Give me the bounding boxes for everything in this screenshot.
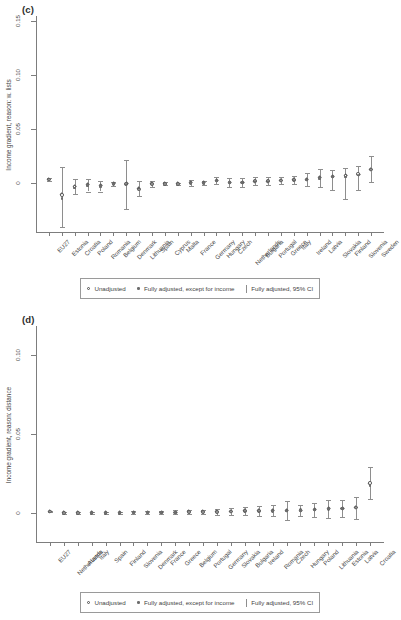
x-tick-mark <box>356 542 357 546</box>
confidence-interval-cap <box>240 178 245 179</box>
y-tick-mark <box>31 183 36 184</box>
confidence-interval-cap <box>369 156 374 157</box>
confidence-interval-cap <box>189 186 194 187</box>
confidence-interval-cap <box>73 179 78 180</box>
x-tick-mark <box>287 542 288 546</box>
y-tick-mark <box>31 129 36 130</box>
data-point-partially-adjusted <box>318 177 320 179</box>
x-tick-mark <box>120 542 121 546</box>
confidence-interval-cap <box>73 194 78 195</box>
panel-c-y-axis <box>36 16 37 232</box>
data-point-partially-adjusted <box>313 509 315 511</box>
panel-d: (d) Income gradient, reason: distance 00… <box>0 310 401 620</box>
confidence-interval-cap <box>98 181 103 182</box>
ci-bar-icon <box>246 285 247 293</box>
x-tick-mark <box>281 232 282 236</box>
partial-marker-icon <box>137 601 140 604</box>
x-tick-mark <box>273 542 274 546</box>
x-tick-mark <box>147 542 148 546</box>
confidence-interval-cap <box>368 499 373 500</box>
confidence-interval-cap <box>137 196 142 197</box>
y-tick-label: 0 <box>0 513 31 514</box>
confidence-interval-cap <box>202 185 207 186</box>
legend-item-partial: Fully adjusted, except for income <box>137 285 234 292</box>
confidence-interval-cap <box>227 178 232 179</box>
x-tick-mark <box>178 232 179 236</box>
y-tick-mark <box>31 355 36 356</box>
x-tick-mark <box>358 232 359 236</box>
x-tick-mark <box>216 232 217 236</box>
figure-container: (c) Income gradient, reason: w. lists 00… <box>0 0 401 620</box>
y-tick-label: 0.10 <box>0 355 31 356</box>
confidence-interval-cap <box>271 505 276 506</box>
x-tick-mark <box>332 232 333 236</box>
data-point-partially-adjusted <box>202 182 204 184</box>
x-tick-mark <box>49 232 50 236</box>
x-tick-mark <box>165 232 166 236</box>
confidence-interval-cap <box>298 505 303 506</box>
data-point-partially-adjusted <box>254 180 256 182</box>
x-tick-mark <box>242 232 243 236</box>
data-point-partially-adjusted <box>293 179 295 181</box>
legend-item-partial: Fully adjusted, except for income <box>137 599 234 606</box>
confidence-interval-cap <box>369 182 374 183</box>
confidence-interval-cap <box>356 166 361 167</box>
x-axis-category-label: EU27 <box>55 238 71 254</box>
confidence-interval-cap <box>227 187 232 188</box>
x-tick-mark <box>307 232 308 236</box>
x-tick-mark <box>161 542 162 546</box>
confidence-interval-cap <box>343 168 348 169</box>
data-point-partially-adjusted <box>86 184 88 186</box>
confidence-interval-cap <box>312 503 317 504</box>
confidence-interval-cap <box>285 501 290 502</box>
confidence-interval-cap <box>279 184 284 185</box>
x-tick-mark <box>64 542 65 546</box>
x-axis-category-label: Spain <box>112 548 128 564</box>
confidence-interval-cap <box>298 516 303 517</box>
confidence-interval-cap <box>343 199 348 200</box>
confidence-interval-cap <box>98 192 103 193</box>
confidence-interval-cap <box>354 519 359 520</box>
confidence-interval-cap <box>318 187 323 188</box>
confidence-interval-cap <box>243 515 248 516</box>
confidence-interval-cap <box>124 209 129 210</box>
panel-c-plot-area: 00.050.100.15EU27EstoniaCroatiaPolandRom… <box>0 0 401 310</box>
confidence-interval-cap <box>137 181 142 182</box>
panel-c: (c) Income gradient, reason: w. lists 00… <box>0 0 401 310</box>
confidence-interval-cap <box>368 467 373 468</box>
x-tick-mark <box>328 542 329 546</box>
data-point-unadjusted <box>60 193 64 197</box>
x-tick-mark <box>175 542 176 546</box>
unadjusted-marker-icon <box>87 287 91 291</box>
data-point-partially-adjusted <box>132 512 134 514</box>
x-tick-mark <box>300 542 301 546</box>
confidence-interval-cap <box>271 516 276 517</box>
x-tick-mark <box>245 542 246 546</box>
data-point-partially-adjusted <box>177 183 179 185</box>
x-tick-mark <box>217 542 218 546</box>
data-point-partially-adjusted <box>344 176 346 178</box>
y-tick-mark <box>31 75 36 76</box>
confidence-interval-bar <box>358 166 359 190</box>
confidence-interval-cap <box>305 186 310 187</box>
confidence-interval-cap <box>266 185 271 186</box>
panel-d-y-axis <box>36 326 37 542</box>
x-tick-mark <box>88 232 89 236</box>
x-tick-mark <box>294 232 295 236</box>
confidence-interval-cap <box>187 514 192 515</box>
confidence-interval-cap <box>330 190 335 191</box>
y-tick-mark <box>31 434 36 435</box>
data-point-partially-adjusted <box>230 511 232 513</box>
data-point-partially-adjusted <box>267 180 269 182</box>
legend-label-unadjusted: Unadjusted <box>94 599 125 606</box>
x-axis-category-label: Croatia <box>378 548 397 567</box>
confidence-interval-cap <box>312 517 317 518</box>
x-tick-mark <box>268 232 269 236</box>
x-tick-mark <box>189 542 190 546</box>
x-tick-mark <box>203 542 204 546</box>
panel-d-legend: Unadjusted Fully adjusted, except for in… <box>80 592 320 613</box>
confidence-interval-cap <box>60 167 65 168</box>
data-point-partially-adjusted <box>285 510 287 512</box>
legend-item-unadjusted: Unadjusted <box>87 599 126 606</box>
x-tick-mark <box>100 232 101 236</box>
